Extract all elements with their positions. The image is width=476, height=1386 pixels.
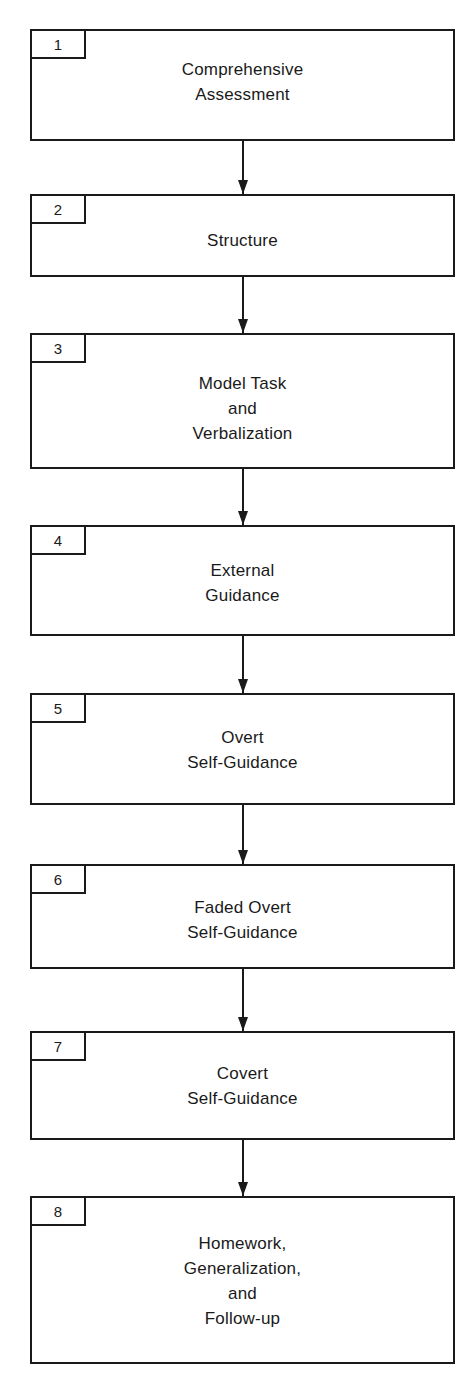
step-label: External Guidance: [32, 558, 453, 608]
step-box-6: 6 Faded Overt Self-Guidance: [30, 864, 455, 969]
step-label-line: Self-Guidance: [32, 1086, 453, 1111]
step-box-8: 8 Homework, Generalization, and Follow-u…: [30, 1196, 455, 1364]
arrowhead-icon: [238, 511, 248, 525]
arrowhead-icon: [238, 679, 248, 693]
step-label-line: Verbalization: [32, 421, 453, 446]
step-box-3: 3 Model Task and Verbalization: [30, 333, 455, 469]
step-label: Covert Self-Guidance: [32, 1061, 453, 1111]
step-label: Overt Self-Guidance: [32, 725, 453, 775]
step-label-line: Covert: [32, 1061, 453, 1086]
step-label-line: Guidance: [32, 583, 453, 608]
step-box-1: 1 Comprehensive Assessment: [30, 29, 455, 141]
step-number-badge: 4: [30, 525, 86, 555]
step-label-line: Faded Overt: [32, 895, 453, 920]
step-label: Faded Overt Self-Guidance: [32, 895, 453, 945]
step-label-line: and: [32, 1281, 453, 1306]
arrow-down-icon: [242, 1140, 244, 1196]
step-box-7: 7 Covert Self-Guidance: [30, 1031, 455, 1140]
step-label: Homework, Generalization, and Follow-up: [32, 1231, 453, 1331]
arrowhead-icon: [238, 1182, 248, 1196]
step-number-badge: 7: [30, 1031, 86, 1061]
arrowhead-icon: [238, 850, 248, 864]
step-number-badge: 3: [30, 333, 86, 363]
step-number-badge: 6: [30, 864, 86, 894]
step-label-line: Self-Guidance: [32, 750, 453, 775]
step-number-badge: 5: [30, 693, 86, 723]
step-label-line: Homework,: [32, 1231, 453, 1256]
arrowhead-icon: [238, 1017, 248, 1031]
step-label-line: Comprehensive: [32, 57, 453, 82]
arrowhead-icon: [238, 180, 248, 194]
step-label-line: Model Task: [32, 371, 453, 396]
step-label: Structure: [32, 228, 453, 253]
step-label-line: Self-Guidance: [32, 920, 453, 945]
step-number-badge: 8: [30, 1196, 86, 1226]
step-label: Comprehensive Assessment: [32, 57, 453, 107]
arrowhead-icon: [238, 319, 248, 333]
arrow-down-icon: [242, 141, 244, 194]
step-label: Model Task and Verbalization: [32, 371, 453, 446]
step-number-badge: 2: [30, 194, 86, 224]
arrow-down-icon: [242, 969, 244, 1031]
step-label-line: Follow-up: [32, 1306, 453, 1331]
step-box-2: 2 Structure: [30, 194, 455, 277]
step-label-line: and: [32, 396, 453, 421]
step-label-line: Generalization,: [32, 1256, 453, 1281]
arrow-down-icon: [242, 636, 244, 693]
step-label-line: External: [32, 558, 453, 583]
arrow-down-icon: [242, 277, 244, 333]
arrow-down-icon: [242, 469, 244, 525]
step-number-badge: 1: [30, 29, 86, 59]
arrow-down-icon: [242, 805, 244, 864]
step-label-line: Overt: [32, 725, 453, 750]
step-box-4: 4 External Guidance: [30, 525, 455, 636]
step-label-line: Assessment: [32, 82, 453, 107]
step-label-line: Structure: [32, 228, 453, 253]
step-box-5: 5 Overt Self-Guidance: [30, 693, 455, 805]
